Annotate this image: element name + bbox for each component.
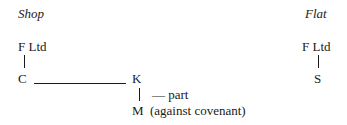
- shop-heading: Shop: [18, 7, 44, 21]
- flat-landlord-tenant-connector: [318, 55, 319, 68]
- shop-assignee-label: K: [132, 72, 141, 86]
- shop-assignment-connector: [34, 83, 126, 84]
- flat-landlord-label: F Ltd: [302, 40, 331, 54]
- shop-sublet-note-2: (against covenant): [150, 104, 246, 118]
- flat-heading: Flat: [305, 7, 327, 21]
- shop-tenant-label: C: [18, 72, 27, 86]
- shop-landlord-label: F Ltd: [18, 40, 47, 54]
- shop-sublet-note: — part: [152, 88, 188, 102]
- flat-tenant-label: S: [314, 72, 321, 86]
- shop-subtenant-label: M: [132, 104, 144, 118]
- shop-sublet-connector: [139, 88, 140, 101]
- shop-landlord-tenant-connector: [24, 55, 25, 68]
